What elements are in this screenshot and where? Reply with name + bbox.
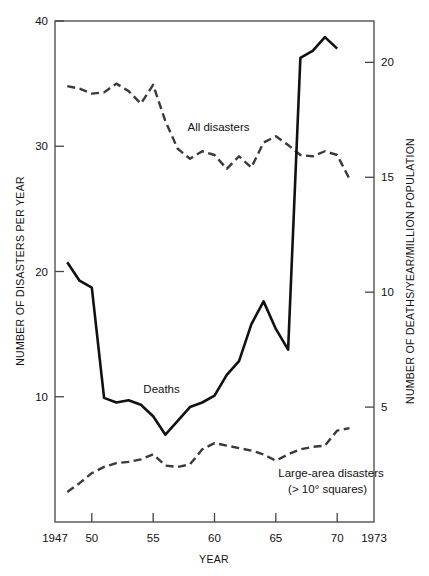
y-axis-right-ticks [365,62,374,407]
x-tick-label-1947: 1947 [42,532,68,544]
tick-labels: 102030405101520194750556065701973 [35,15,394,544]
x-axis-title: YEAR [199,553,229,565]
annotation-large-area-disasters: Large-area disasters [278,467,384,479]
plot-frame [55,21,374,522]
x-tick-label-1965: 65 [269,532,282,544]
y-tick-label-left-30: 30 [35,140,48,152]
y-tick-label-left-40: 40 [35,15,48,27]
y-tick-label-right-10: 10 [381,286,394,298]
x-tick-label-1955: 55 [147,532,160,544]
y-axis-left-title: NUMBER OF DISASTERS PER YEAR [14,176,26,366]
series-line-deaths [67,37,337,435]
y-axis-right-title: NUMBER OF DEATHS/YEAR/MILLION POPULATION [404,138,416,404]
y-tick-label-left-20: 20 [35,266,48,278]
y-tick-label-right-5: 5 [381,401,387,413]
x-axis-ticks [92,513,337,522]
annotation-10-squares: (> 10° squares) [288,483,367,495]
x-tick-label-1970: 70 [331,532,344,544]
y-tick-label-right-15: 15 [381,171,394,183]
y-axis-left-ticks [55,21,64,397]
annotation-all-disasters: All disasters [188,121,250,133]
y-tick-label-left-10: 10 [35,391,48,403]
annotation-deaths: Deaths [143,383,180,395]
x-tick-label-1960: 60 [208,532,221,544]
series-layer [67,37,349,492]
x-tick-label-1950: 50 [85,532,98,544]
y-tick-label-right-20: 20 [381,56,394,68]
chart-figure: 102030405101520194750556065701973 All di… [0,0,429,576]
x-tick-label-1973: 1973 [361,532,387,544]
chart-svg: 102030405101520194750556065701973 All di… [0,0,429,576]
